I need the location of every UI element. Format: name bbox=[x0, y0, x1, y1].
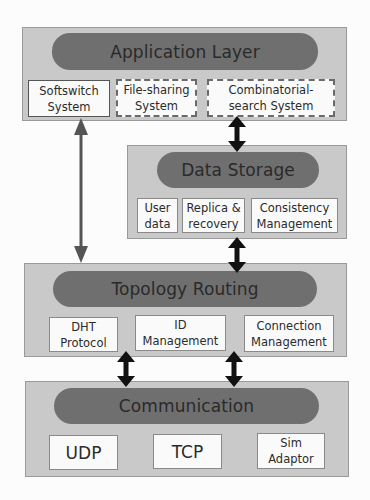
dht-communication-arrow bbox=[117, 351, 135, 387]
connection-arrows bbox=[0, 0, 370, 500]
combinatorial-datastorage-arrow bbox=[228, 116, 246, 152]
softswitch-topology-arrow bbox=[74, 118, 88, 263]
datastorage-topology-arrow bbox=[228, 237, 246, 273]
idmanagement-communication-arrow bbox=[225, 351, 243, 387]
